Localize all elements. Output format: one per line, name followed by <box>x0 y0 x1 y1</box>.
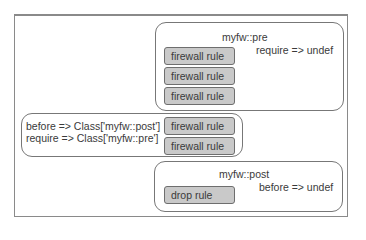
group-post-param: before => undef <box>259 181 333 193</box>
drop-rule-post: drop rule <box>164 186 235 204</box>
firewall-rule-pre-2: firewall rule <box>164 67 235 85</box>
group-pre-title: myfw::pre <box>222 31 268 43</box>
main-param-require: require => Class['myfw::pre'] <box>26 132 158 144</box>
firewall-rule-main-2: firewall rule <box>164 137 235 155</box>
group-post-title: myfw::post <box>219 168 269 180</box>
group-pre-param: require => undef <box>256 44 333 56</box>
firewall-rule-main-1: firewall rule <box>164 117 235 135</box>
firewall-rule-pre-1: firewall rule <box>164 47 235 65</box>
main-param-before: before => Class['myfw::post'] <box>26 120 160 132</box>
firewall-rule-pre-3: firewall rule <box>164 87 235 105</box>
